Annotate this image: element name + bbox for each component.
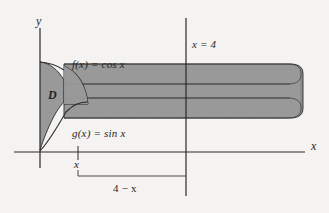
solid-bottom-rim	[64, 98, 301, 118]
revolution-solid	[64, 64, 303, 118]
boundary-line-label: x = 4	[192, 38, 216, 50]
x-tick-label: x	[74, 158, 79, 170]
solid-of-revolution-figure: y x f(x) = cos x g(x) = sin x x = 4 D x …	[0, 0, 329, 213]
y-axis-label: y	[36, 14, 42, 29]
dimension-4-minus-x	[78, 170, 186, 176]
x-axis-label: x	[311, 139, 317, 154]
figure-canvas	[0, 0, 329, 213]
curve-label-f: f(x) = cos x	[72, 58, 125, 70]
region-label: D	[48, 88, 57, 103]
dimension-label: 4 − x	[113, 182, 137, 194]
curve-label-g: g(x) = sin x	[72, 127, 126, 139]
